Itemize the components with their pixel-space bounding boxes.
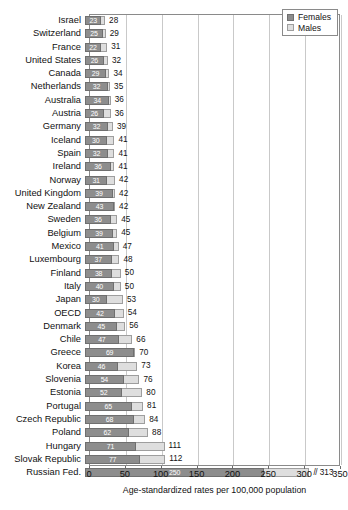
stacked-bar: 23 [85,16,105,25]
stacked-bar: 65 [85,402,143,411]
bar-segment-males [140,455,165,464]
bar-track: 3641 [85,160,348,173]
category-label: Greece [0,348,85,357]
female-value-label: 30 [92,296,99,303]
female-value-label: 36 [94,163,101,170]
category-label: Russian Fed. [0,468,85,477]
category-label: Portugal [0,402,85,411]
chart-row: Greece6970 [0,346,348,359]
bar-track: 4342 [85,200,348,213]
bar-segment-females: 32 [85,122,108,131]
bar-track: 3241 [85,147,348,160]
stacked-bar: 43 [85,202,115,211]
category-label: Belgium [0,229,85,238]
category-label: Hungary [0,442,85,451]
stacked-bar: 45 [85,322,125,331]
bar-segment-females: 34 [85,96,109,105]
category-label: France [0,43,85,52]
bar-track: 71111 [85,440,348,453]
bar-segment-males [112,269,121,278]
chart-row: Spain3241 [0,147,348,160]
total-value-label: 41 [114,163,127,171]
x-axis-title: Age-standardized rates per 100,000 popul… [89,485,340,495]
bar-track: 3239 [85,120,348,133]
category-label: Luxembourg [0,255,85,264]
category-label: Ireland [0,162,85,171]
bar-segment-males [107,295,123,304]
category-label: Slovak Republic [0,455,85,464]
chart-row: Estonia5280 [0,386,348,399]
bar-segment-males [104,109,111,118]
x-axis-tick-label: 250 [261,470,277,479]
female-value-label: 40 [96,283,103,290]
stacked-bar: 32 [85,149,114,158]
category-label: Slovenia [0,375,85,384]
stacked-bar: 30 [85,295,123,304]
category-label: Korea [0,362,85,371]
chart-row: Czech Republic6884 [0,413,348,426]
total-value-label: 29 [106,30,119,38]
bar-segment-males [118,362,137,371]
bar-track: 2636 [85,107,348,120]
bar-segment-males [134,415,145,424]
total-value-label: 53 [123,296,136,304]
bar-segment-females: 30 [85,295,107,304]
stacked-bar: 30 [85,136,114,145]
category-label: Iceland [0,136,85,145]
stacked-bar: 36 [85,162,114,171]
x-axis-tick-label: 300 [296,470,312,479]
x-axis-tick-label: 0 [86,470,91,479]
bar-segment-females: 52 [85,388,122,397]
legend-label-males: Males [298,24,321,33]
bar-segment-males [122,388,142,397]
bar-segment-females: 36 [85,162,111,171]
bar-segment-females: 71 [85,442,136,451]
female-value-label: 26 [91,110,98,117]
bar-segment-females: 41 [85,242,114,251]
total-value-label: 80 [142,389,155,397]
legend-item-females: Females [287,13,331,22]
total-value-label: 42 [115,203,128,211]
x-axis-tick-label: 100 [153,470,169,479]
female-value-label: 77 [109,456,116,463]
stacked-bar: 39 [85,229,117,238]
chart-row: Austria2636 [0,107,348,120]
female-value-label: 32 [93,150,100,157]
chart-row: Poland6288 [0,426,348,439]
female-value-label: 45 [97,323,104,330]
female-value-label: 65 [105,403,112,410]
female-value-label: 37 [95,256,102,263]
category-label: Germany [0,122,85,131]
chart-row: Luxembourg3748 [0,253,348,266]
bar-track: 6288 [85,426,348,439]
bar-track: 3142 [85,174,348,187]
chart-row: Italy4050 [0,280,348,293]
chart-row: Portugal6581 [0,400,348,413]
stacked-bar: 26 [85,109,111,118]
chart-row: Slovenia5476 [0,373,348,386]
bar-segment-females: 37 [85,255,112,264]
female-value-label: 32 [93,83,100,90]
total-value-label: 111 [165,442,181,450]
total-value-label: 45 [117,229,130,237]
bar-segment-females: 26 [85,109,104,118]
category-label: Italy [0,282,85,291]
chart-legend: Females Males [282,9,338,36]
chart-row: United Kingdom3942 [0,187,348,200]
stacked-bar: 68 [85,415,145,424]
chart-row: Germany3239 [0,120,348,133]
stacked-bar: 47 [85,335,132,344]
female-value-label: 25 [90,30,97,37]
total-value-label: 50 [121,269,134,277]
female-value-label: 47 [98,336,105,343]
total-value-label: 41 [114,136,127,144]
chart-row: Denmark4556 [0,320,348,333]
total-value-label: 47 [119,243,132,251]
bar-segment-females: 26 [85,56,104,65]
bar-segment-females: 42 [85,309,115,318]
bar-track: 5280 [85,386,348,399]
category-label: Austria [0,109,85,118]
stacked-bar: 32 [85,82,110,91]
bar-segment-males [129,428,148,437]
bar-segment-females: 40 [85,282,114,291]
